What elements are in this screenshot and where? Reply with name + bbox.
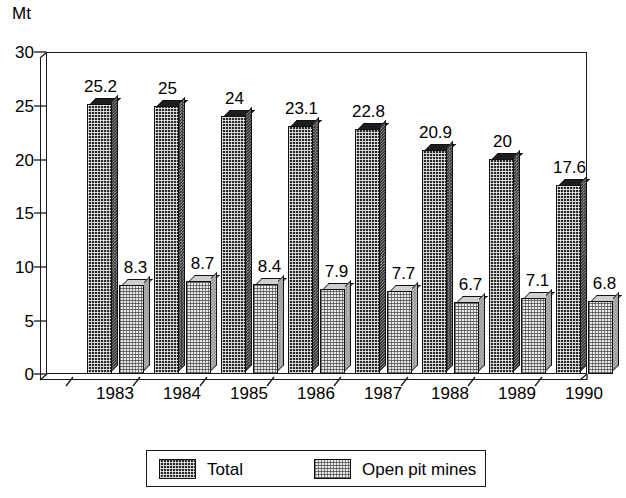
bar-side-face: [112, 95, 118, 371]
legend-label-open-pit-mines: Open pit mines: [362, 461, 476, 478]
bar-side-face: [581, 176, 587, 371]
y-tick-label-5: 5: [0, 313, 34, 330]
bar-total-1990: [556, 185, 581, 374]
bar-open-pit-mines-1985: [253, 284, 278, 374]
bar-value-label: 23.1: [279, 100, 325, 117]
bar-side-face: [246, 107, 252, 371]
x-tick-label-1986: 1986: [286, 385, 346, 402]
x-tick-label-1990: 1990: [554, 385, 614, 402]
bar-value-label: 8.3: [113, 259, 159, 276]
bar-side-face: [211, 272, 217, 371]
y-tick-label-25: 25: [0, 98, 34, 115]
bar-side-face: [278, 275, 284, 371]
legend-entry-open-pit-mines: Open pit mines: [314, 459, 476, 479]
y-tick-label-0: 0: [0, 366, 34, 383]
bar-value-label: 7.7: [381, 265, 427, 282]
bar-total-1985: [221, 116, 246, 374]
bar-value-label: 24: [212, 90, 258, 107]
bar-value-label: 8.7: [180, 255, 226, 272]
bar-open-pit-mines-1986: [320, 289, 345, 374]
bar-open-pit-mines-1989: [521, 298, 546, 374]
y-tick-label-15: 15: [0, 205, 34, 222]
bar-total-1988: [422, 150, 447, 374]
legend-swatch-total-icon: [159, 459, 196, 479]
x-tick-label-1988: 1988: [420, 385, 480, 402]
bar-side-face: [412, 282, 418, 371]
bar-open-pit-mines-1987: [387, 291, 412, 374]
bar-total-1984: [154, 106, 179, 374]
x-tick-label-1989: 1989: [487, 385, 547, 402]
bar-open-pit-mines-1990: [588, 301, 613, 374]
bar-total-1983: [87, 104, 112, 374]
bar-side-face: [345, 280, 351, 371]
bar-open-pit-mines-1988: [454, 302, 479, 374]
bar-value-label: 20: [480, 133, 526, 150]
y-tick-label-10: 10: [0, 259, 34, 276]
bar-value-label: 20.9: [413, 124, 459, 141]
bar-value-label: 7.9: [314, 263, 360, 280]
bar-side-face: [546, 289, 552, 371]
bar-total-1987: [355, 129, 380, 374]
bar-side-face: [479, 293, 485, 371]
legend-entry-total: Total: [159, 459, 243, 479]
bar-value-label: 6.7: [448, 276, 494, 293]
bar-open-pit-mines-1983: [119, 285, 144, 374]
bar-total-1986: [288, 126, 313, 374]
bar-side-face: [179, 97, 185, 371]
x-tick-label-1983: 1983: [85, 385, 145, 402]
plot-depth-left-edge: [40, 58, 46, 380]
legend-swatch-open-pit-mines-icon: [314, 459, 351, 479]
bar-value-label: 25.2: [78, 78, 124, 95]
bar-value-label: 7.1: [515, 272, 561, 289]
bar-open-pit-mines-1984: [186, 281, 211, 374]
bar-side-face: [447, 141, 453, 371]
y-tick-label-20: 20: [0, 152, 34, 169]
x-tick-label-1984: 1984: [152, 385, 212, 402]
bar-value-label: 25: [145, 80, 191, 97]
bar-value-label: 17.6: [547, 159, 593, 176]
bar-total-1989: [489, 159, 514, 374]
bar-value-label: 6.8: [582, 275, 626, 292]
plot-depth-bottom-edge: [40, 374, 587, 380]
bar-value-label: 22.8: [346, 103, 392, 120]
bar-side-face: [514, 150, 520, 371]
legend-label-total: Total: [207, 461, 243, 478]
bar-side-face: [380, 120, 386, 371]
x-tick-label-1985: 1985: [219, 385, 279, 402]
chart-legend: Total Open pit mines: [146, 450, 486, 487]
y-axis-unit-label: Mt: [12, 5, 31, 22]
bar-side-face: [144, 276, 150, 371]
bar-side-face: [313, 117, 319, 371]
x-tick-label-1987: 1987: [353, 385, 413, 402]
bar-value-label: 8.4: [247, 258, 293, 275]
bar-side-face: [613, 292, 619, 371]
y-tick-label-30: 30: [0, 44, 34, 61]
